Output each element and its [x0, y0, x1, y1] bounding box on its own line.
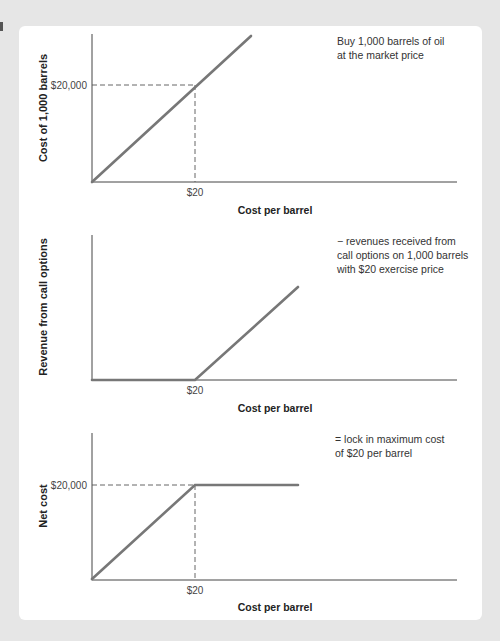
series-line [92, 36, 251, 182]
x-axis-label: Cost per barrel [238, 601, 313, 613]
y-axis-label: Net cost [37, 484, 49, 528]
annotation-line-2: call options on 1,000 barrels [337, 249, 468, 261]
y-tick-label: $20,000 [51, 80, 88, 91]
annotation-line-1: = lock in maximum cost [335, 433, 444, 445]
x-tick-label: $20 [187, 385, 204, 396]
series-line [92, 287, 298, 380]
chart-call-revenue: $20 Cost per barrel Revenue from call op… [37, 235, 468, 414]
annotation-line-1: − revenues received from [337, 235, 456, 247]
annotation-line-2: at the market price [337, 49, 424, 61]
x-tick-label: $20 [187, 585, 204, 596]
y-axis-label: Revenue from call options [37, 238, 49, 376]
chart-net-cost: $20,000 $20 Cost per barrel Net cost = l… [37, 433, 457, 613]
y-tick-label: $20,000 [51, 480, 88, 491]
x-axis-label: Cost per barrel [238, 402, 313, 414]
chart-market-cost: $20,000 $20 Cost per barrel Cost of 1,00… [37, 34, 457, 216]
annotation-line-3: with $20 exercise price [336, 263, 444, 275]
charts-canvas: $20,000 $20 Cost per barrel Cost of 1,00… [0, 0, 500, 641]
x-axis-label: Cost per barrel [238, 204, 313, 216]
annotation-line-1: Buy 1,000 barrels of oil [337, 35, 444, 47]
series-line [92, 485, 298, 579]
x-tick-label: $20 [187, 187, 204, 198]
annotation-line-2: of $20 per barrel [335, 447, 412, 459]
y-axis-label: Cost of 1,000 barrels [37, 54, 49, 162]
